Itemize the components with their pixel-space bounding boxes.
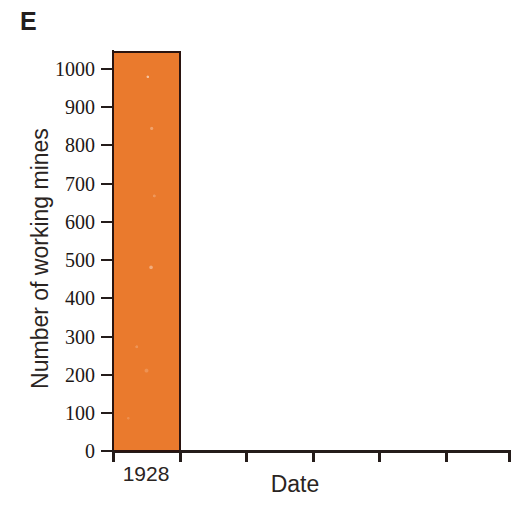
y-axis-title: Number of working mines <box>29 114 52 404</box>
plot-area: 0 100 200 300 400 500 600 700 <box>0 0 516 517</box>
x-tick-5 <box>445 450 448 462</box>
x-tick-label-1928: 1928 <box>101 463 191 484</box>
x-tick-6 <box>508 450 511 462</box>
x-tick-4 <box>378 450 381 462</box>
y-tick-label-100: 100 <box>39 403 95 423</box>
x-tick-3 <box>312 450 315 462</box>
x-tick-1 <box>179 450 182 462</box>
y-tick-label-0: 0 <box>39 441 95 461</box>
bar-texture <box>114 53 179 450</box>
x-axis-title: Date <box>245 473 345 496</box>
x-tick-2 <box>245 450 248 462</box>
chart-figure: E 0 100 200 300 400 500 <box>0 0 516 517</box>
x-tick-0 <box>112 450 115 462</box>
bar-1928[interactable] <box>112 51 181 452</box>
y-tick-label-1000: 1000 <box>39 59 95 79</box>
